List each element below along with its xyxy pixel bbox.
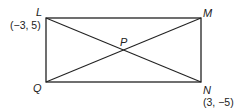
vertex-label-N: N — [203, 84, 211, 96]
rectangle-diagram: L (−3, 5) M Q N (3, −5) P — [0, 0, 246, 110]
vertex-label-M: M — [203, 7, 213, 19]
intersection-label-P: P — [120, 36, 128, 48]
coord-label-L: (−3, 5) — [10, 19, 41, 31]
vertex-label-Q: Q — [33, 82, 42, 94]
coord-label-N: (3, −5) — [203, 96, 234, 108]
vertex-label-L: L — [36, 6, 42, 18]
